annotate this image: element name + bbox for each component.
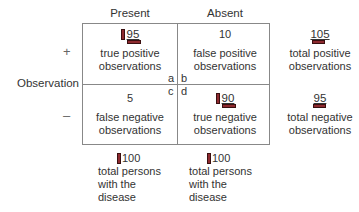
cell-false-positive: 10 false positive observations bbox=[178, 28, 272, 73]
cell-true-negative: 90 true negative observations bbox=[178, 92, 272, 137]
cell-d-value: 90 bbox=[178, 92, 272, 111]
row-total-negative-text-1: total negative bbox=[280, 111, 359, 124]
cell-b-value: 10 bbox=[178, 28, 272, 47]
cell-a-value: 95 bbox=[83, 28, 177, 47]
cell-c-text-2: observations bbox=[83, 124, 177, 137]
vertical-marker-icon bbox=[121, 29, 125, 40]
column-total-present: 100 total persons with the disease bbox=[98, 152, 168, 204]
cell-false-negative: 5 false negative observations bbox=[83, 92, 177, 137]
column-total-absent-text-1: total persons bbox=[189, 165, 259, 178]
cell-c-value: 5 bbox=[83, 92, 177, 111]
column-total-present-text-1: total persons bbox=[98, 165, 168, 178]
column-total-present-value: 100 bbox=[98, 152, 168, 165]
horizontal-marker-icon bbox=[313, 104, 326, 108]
column-header-absent: Absent bbox=[177, 7, 273, 19]
row-total-positive: 105 total positive observations bbox=[280, 28, 359, 73]
column-total-present-text-2: with the bbox=[98, 178, 168, 191]
cell-a-text-2: observations bbox=[83, 60, 177, 73]
cell-a-number: 95 bbox=[127, 28, 140, 41]
vertical-marker-icon bbox=[216, 93, 220, 104]
row-total-positive-text-2: observations bbox=[280, 60, 359, 73]
observation-label: Observation bbox=[17, 77, 79, 89]
vertical-marker-icon bbox=[117, 153, 121, 164]
grid-horizontal-divider bbox=[82, 84, 270, 85]
cell-a-corner-label: a bbox=[168, 72, 174, 84]
column-total-absent-value: 100 bbox=[189, 152, 259, 165]
row-total-positive-text-1: total positive bbox=[280, 47, 359, 60]
cell-b-text-2: observations bbox=[178, 60, 272, 73]
row-total-negative-value: 95 bbox=[280, 92, 359, 111]
row-total-negative-text-2: observations bbox=[280, 124, 359, 137]
cell-true-positive: 95 true positive observations bbox=[83, 28, 177, 73]
vertical-marker-icon bbox=[207, 153, 211, 164]
cell-c-text-1: false negative bbox=[83, 111, 177, 124]
column-total-absent: 100 total persons with the disease bbox=[189, 152, 259, 204]
cell-b-corner-label: b bbox=[181, 72, 187, 84]
row-total-negative-number: 95 bbox=[314, 92, 327, 105]
row-total-negative: 95 total negative observations bbox=[280, 92, 359, 137]
column-total-absent-text-2: with the bbox=[189, 178, 259, 191]
cell-d-text-2: observations bbox=[178, 124, 272, 137]
cell-b-text-1: false positive bbox=[178, 47, 272, 60]
column-total-absent-text-3: disease bbox=[189, 191, 259, 204]
column-header-present: Present bbox=[82, 7, 178, 19]
row-total-positive-number: 105 bbox=[310, 28, 329, 41]
row-total-positive-value: 105 bbox=[280, 28, 359, 47]
negative-sign: – bbox=[63, 108, 70, 123]
horizontal-marker-icon bbox=[222, 104, 236, 108]
horizontal-marker-icon bbox=[127, 40, 141, 44]
cell-a-text-1: true positive bbox=[83, 47, 177, 60]
cell-d-text-1: true negative bbox=[178, 111, 272, 124]
horizontal-marker-icon bbox=[312, 40, 325, 44]
cell-d-number: 90 bbox=[222, 92, 235, 105]
column-total-present-text-3: disease bbox=[98, 191, 168, 204]
positive-sign: + bbox=[63, 44, 71, 59]
